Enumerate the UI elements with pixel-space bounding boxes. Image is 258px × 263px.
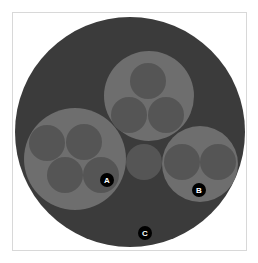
leaf-circle [29,125,65,161]
lone-leaf-circles [126,144,162,180]
leaf-circle [47,157,83,193]
left-group [24,108,126,210]
leaf-circle [83,157,119,193]
leaf-circle [66,124,102,160]
label-b-marker: B [192,183,206,197]
leaf-circle [200,144,236,180]
label-c-marker: C [138,226,152,240]
label-a-marker: A [100,173,114,187]
circle-packing-diagram: A B C [0,0,258,263]
leaf-circle [130,63,166,99]
leaf-circle [111,97,147,133]
leaf-circle [126,144,162,180]
top-group [104,51,194,141]
leaf-circle [164,144,200,180]
label-a-text: A [104,176,110,185]
leaf-circle [148,97,184,133]
label-b-text: B [196,186,202,195]
label-c-text: C [142,229,148,238]
